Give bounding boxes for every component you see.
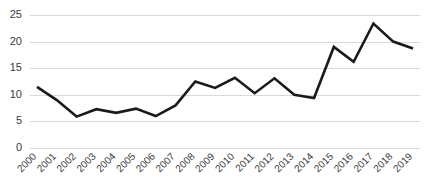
x-tick-label-2007: 2007: [153, 150, 177, 174]
y-tick-label-5: 5: [16, 114, 22, 126]
x-tick-label-2000: 2000: [15, 150, 39, 174]
x-tick-label-2014: 2014: [292, 150, 316, 174]
x-tick-label-2005: 2005: [114, 150, 138, 174]
chart-canvas: 0510152025200020012002200320042005200620…: [0, 0, 446, 189]
x-tick-label-2016: 2016: [332, 150, 356, 174]
x-tick-label-2002: 2002: [54, 150, 78, 174]
x-tick-label-2013: 2013: [272, 150, 296, 174]
x-tick-label-2018: 2018: [371, 150, 395, 174]
y-tick-label-0: 0: [16, 141, 22, 153]
x-tick-label-2010: 2010: [213, 150, 237, 174]
x-tick-label-2008: 2008: [173, 150, 197, 174]
x-tick-label-2015: 2015: [312, 150, 336, 174]
x-tick-label-2011: 2011: [233, 150, 256, 173]
x-tick-label-2003: 2003: [74, 150, 98, 174]
x-tick-label-2012: 2012: [252, 150, 276, 174]
y-tick-label-25: 25: [10, 8, 22, 20]
x-tick-label-2006: 2006: [134, 150, 158, 174]
y-tick-label-10: 10: [10, 88, 22, 100]
x-tick-label-2009: 2009: [193, 150, 217, 174]
series-line-1: [37, 24, 413, 117]
x-tick-label-2017: 2017: [351, 150, 375, 174]
y-tick-label-15: 15: [10, 61, 22, 73]
x-tick-label-2019: 2019: [391, 150, 415, 174]
line-chart: 0510152025200020012002200320042005200620…: [0, 0, 446, 189]
x-tick-label-2001: 2001: [35, 150, 59, 174]
y-tick-label-20: 20: [10, 35, 22, 47]
x-tick-label-2004: 2004: [94, 150, 118, 174]
